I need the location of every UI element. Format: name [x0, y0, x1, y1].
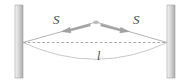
right-support-wall — [167, 5, 175, 78]
tension-arrow-left — [62, 24, 91, 33]
cable-tension-diagram: S S l — [0, 0, 191, 83]
taut-cable-right-segment — [96, 22, 167, 43]
tension-label-right: S — [133, 13, 140, 26]
cable-length-label: l — [97, 50, 100, 62]
tension-arrow-right — [101, 24, 130, 33]
apex-joint-marker — [93, 21, 98, 24]
sagging-cable-arc — [23, 43, 167, 60]
diagram-canvas — [0, 0, 191, 83]
tension-label-left: S — [53, 13, 60, 26]
left-support-wall — [15, 5, 23, 78]
